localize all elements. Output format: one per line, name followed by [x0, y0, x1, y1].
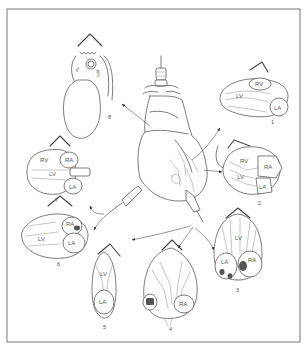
view-2-label-lv: LV [237, 174, 244, 180]
view-1-number: 1 [271, 119, 274, 125]
view-5-number: 5 [103, 324, 106, 330]
view-2-label-la: LA [259, 184, 266, 190]
view-1: RV LV LA 1 [220, 62, 288, 125]
view-2-number: 2 [258, 200, 261, 206]
view-7-label-la: LA [69, 184, 76, 190]
view-5-label-la: LA [99, 299, 106, 305]
view-8-label-rpa: RPA [95, 69, 101, 78]
view-1-label-lv: LV [236, 93, 243, 99]
view-2-label-rv: RV [240, 158, 248, 164]
view-6-label-ra: RA [66, 221, 74, 227]
apical-transducer-icon [172, 174, 203, 222]
view-5: LV LA 5 [92, 244, 120, 330]
view-7-label-lv: LV [49, 171, 56, 177]
view-1-label-rv: RV [255, 81, 263, 87]
view-2-label-ra: RA [264, 164, 272, 170]
view-arrows [90, 104, 222, 250]
view-4-number: 4 [169, 326, 172, 332]
view-6-number: 6 [57, 261, 60, 267]
view-5-label-lv: LV [100, 271, 107, 277]
view-4: RA 4 [143, 240, 197, 332]
view-3: LV LA RA 3 [214, 208, 262, 293]
view-8-number: 8 [108, 114, 111, 120]
view-7-label-ra: RA [65, 157, 73, 163]
view-2: RV LV RA LA 2 [216, 140, 282, 206]
view-6: RA LV LA 6 [22, 196, 88, 267]
view-8: Ao RPA 8 [64, 34, 113, 138]
parasternal-transducer-icon [110, 186, 142, 212]
view-3-label-la: LA [221, 259, 228, 265]
view-7: RV RA LV LA 7 [27, 136, 90, 203]
view-3-label-lv: LV [235, 235, 242, 241]
view-3-label-ra: RA [248, 257, 256, 263]
view-6-label-la: LA [68, 240, 75, 246]
view-3-number: 3 [236, 287, 239, 293]
view-7-label-rv: RV [40, 157, 48, 163]
view-4-label-ra: RA [179, 301, 187, 307]
view-6-label-lv: LV [38, 236, 45, 242]
central-heart [110, 56, 207, 222]
suprasternal-transducer-icon [155, 56, 167, 86]
view-8-label-ao: Ao [74, 65, 80, 72]
echocardiography-views-diagram: Ao RPA 8 RV LV LA 1 RV LV RA LA 2 [0, 0, 304, 348]
view-1-label-la: LA [274, 105, 281, 111]
